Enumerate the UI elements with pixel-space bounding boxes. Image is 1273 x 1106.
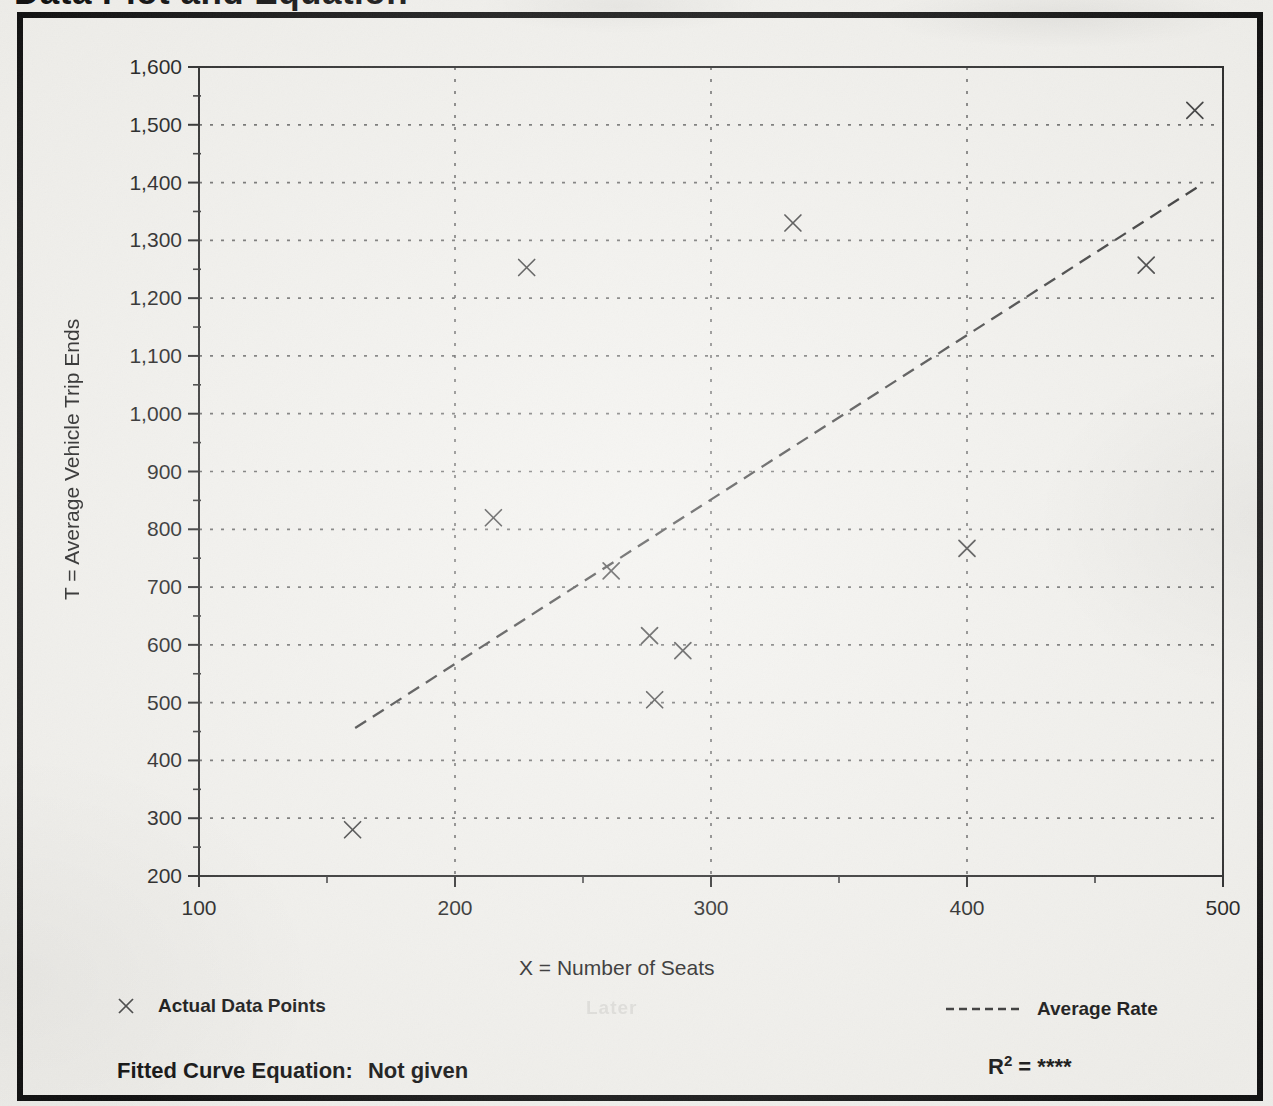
y-tick-label: 400 (147, 748, 182, 771)
y-tick-label: 1,300 (129, 228, 182, 251)
dashed-line-icon (946, 1006, 1024, 1012)
ghost-bleedthrough-text: Later (586, 997, 637, 1019)
r-squared-exponent: 2 (1004, 1052, 1012, 1069)
y-tick-label: 1,000 (129, 402, 182, 425)
x-tick-label: 200 (437, 896, 472, 919)
x-tick-label: 100 (181, 896, 216, 919)
page-title: Data Plot and Equation (14, 0, 408, 9)
y-tick-label: 700 (147, 575, 182, 598)
y-tick-label: 300 (147, 806, 182, 829)
fitted-curve-label: Fitted Curve Equation: (117, 1058, 353, 1083)
legend-actual-label: Actual Data Points (158, 995, 326, 1017)
legend-rate-label: Average Rate (1037, 998, 1158, 1020)
y-tick-label: 1,600 (129, 55, 182, 78)
y-tick-label: 1,100 (129, 344, 182, 367)
scatter-chart: 2003004005006007008009001,0001,1001,2001… (0, 0, 1273, 1106)
x-axis-title: X = Number of Seats (519, 956, 715, 980)
x-cross-marker-icon (116, 996, 136, 1016)
r-squared-value: = **** (1018, 1054, 1071, 1079)
y-tick-label: 1,500 (129, 113, 182, 136)
x-tick-label: 400 (949, 896, 984, 919)
legend-actual-data-points: Actual Data Points (116, 995, 326, 1017)
y-axis-title: T = Average Vehicle Trip Ends (52, 283, 92, 635)
x-tick-label: 300 (693, 896, 728, 919)
fitted-curve-equation: Fitted Curve Equation:Not given (117, 1058, 468, 1084)
y-tick-label: 200 (147, 864, 182, 887)
y-tick-label: 800 (147, 517, 182, 540)
r-squared-base: R (988, 1054, 1004, 1079)
y-tick-label: 600 (147, 633, 182, 656)
legend-average-rate: Average Rate (946, 998, 1158, 1020)
x-tick-label: 500 (1205, 896, 1240, 919)
y-tick-label: 900 (147, 460, 182, 483)
y-tick-label: 1,400 (129, 171, 182, 194)
y-tick-label: 1,200 (129, 286, 182, 309)
r-squared: R2 = **** (988, 1052, 1072, 1080)
average-rate-line (355, 187, 1197, 728)
y-tick-label: 500 (147, 691, 182, 714)
fitted-curve-value: Not given (368, 1058, 468, 1083)
scanned-document-page: { "page": { "title": "Data Plot and Equa… (0, 0, 1273, 1106)
